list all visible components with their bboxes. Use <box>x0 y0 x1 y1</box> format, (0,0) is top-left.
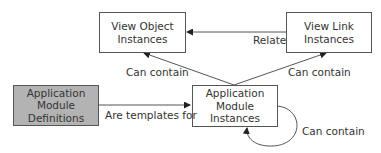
am-instances-node: ApplicationModuleInstances <box>192 85 278 127</box>
node-label: Instances <box>304 33 354 46</box>
contains-vo-label: Can contain <box>126 66 189 78</box>
node-label: Definitions <box>27 112 86 125</box>
templates-label: Are templates for <box>105 109 197 121</box>
node-label: View Link <box>304 20 354 33</box>
node-label: Application <box>206 87 265 100</box>
view-link-instances-node: View LinkInstances <box>286 12 372 53</box>
node-label: Module <box>206 100 265 113</box>
contains-vl-label: Can contain <box>288 66 351 78</box>
node-label: Instances <box>111 33 173 46</box>
relate-label: Relate <box>253 34 286 46</box>
node-label: View Object <box>111 20 173 33</box>
node-label: Instances <box>206 112 265 125</box>
view-object-instances-node: View ObjectInstances <box>99 12 186 53</box>
node-label: Application <box>27 87 86 100</box>
node-label: Module <box>27 99 86 112</box>
self-loop-label: Can contain <box>302 125 365 137</box>
am-definitions-node: ApplicationModuleDefinitions <box>13 85 99 126</box>
